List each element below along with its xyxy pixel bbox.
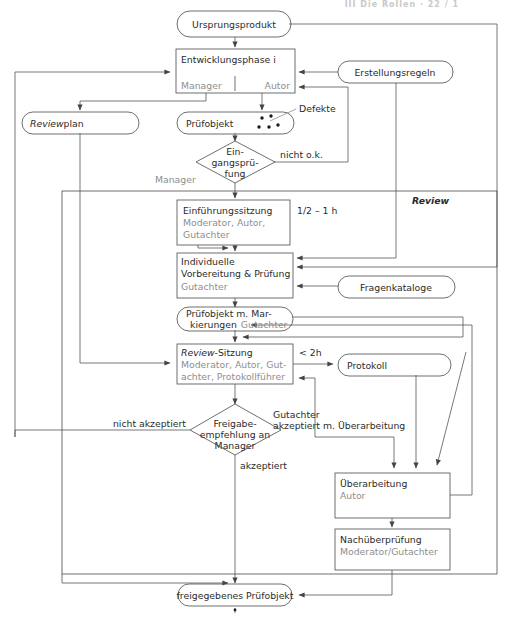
reviewplan-label-rest: plan bbox=[64, 118, 84, 129]
node-freigabeempfehlung[interactable]: Freigabe- empfehlung an Manager nicht ak… bbox=[113, 404, 405, 471]
freigabeempfehlung-line3: Manager bbox=[215, 440, 256, 451]
node-freigegebenes-pruefobjekt[interactable]: freigegebenes Prüfobjekt bbox=[177, 584, 294, 606]
flowchart-canvas: Review Ursprungsprodukt Entwicklungsphas… bbox=[0, 0, 511, 622]
review-frame-label: Review bbox=[412, 195, 450, 206]
pruefobjekt-mark-role: Gutachter bbox=[241, 319, 288, 330]
fragenkataloge-label: Fragenkataloge bbox=[360, 282, 432, 293]
eingangspruefung-line1: Ein- bbox=[226, 146, 244, 157]
ueberarbeitung-label: Überarbeitung bbox=[340, 478, 407, 489]
node-individuelle-vorbereitung[interactable]: Individuelle Vorbereitung & Prüfung Guta… bbox=[177, 253, 293, 298]
review-sitzung-role1: Moderator, Autor, Gut- bbox=[181, 359, 286, 370]
review-sitzung-role2: achter, Protokollführer bbox=[181, 371, 285, 382]
individuelle-label2: Vorbereitung & Prüfung bbox=[181, 268, 290, 279]
einfuehrungssitzung-label: Einführungssitzung bbox=[183, 205, 272, 216]
defekte-annotation: Defekte bbox=[299, 103, 336, 114]
ursprungsprodukt-label: Ursprungsprodukt bbox=[192, 19, 276, 30]
nachueberpruefung-label: Nachüberprüfung bbox=[340, 534, 422, 545]
defekte-dots bbox=[257, 114, 279, 128]
edge-label-akzeptiert-ueberarbeitung: akzeptiert m. Überarbeitung bbox=[273, 420, 405, 431]
erstellungsregeln-label: Erstellungsregeln bbox=[354, 67, 435, 78]
node-fragenkataloge[interactable]: Fragenkataloge bbox=[338, 276, 455, 298]
reviewplan-label-italic: Review bbox=[30, 118, 64, 129]
ueberarbeitung-role: Autor bbox=[340, 490, 366, 501]
freigabeempfehlung-line1: Freigabe- bbox=[213, 418, 256, 429]
edge-label-akzeptiert: akzeptiert bbox=[240, 460, 287, 471]
node-nachueberpruefung[interactable]: Nachüberprüfung Moderator/Gutachter bbox=[335, 529, 450, 570]
einfuehrungssitzung-role1: Moderator, Autor, bbox=[183, 217, 265, 228]
protokoll-label: Protokoll bbox=[347, 360, 387, 371]
entwicklungsphase-role-manager: Manager bbox=[181, 80, 222, 91]
pruefobjekt-mark-line2: kierungenGutachter bbox=[190, 319, 288, 330]
entwicklungsphase-role-autor: Autor bbox=[265, 80, 291, 91]
node-entwicklungsphase[interactable]: Entwicklungsphase i Manager Autor bbox=[176, 49, 295, 93]
review-sitzung-label-rest: -Sitzung bbox=[215, 347, 253, 358]
eingangspruefung-line2: gangsprü- bbox=[211, 157, 258, 168]
review-sitzung-duration: < 2h bbox=[299, 347, 322, 358]
node-ursprungsprodukt[interactable]: Ursprungsprodukt bbox=[177, 11, 291, 37]
pruefobjekt-mark-label2: kierungen bbox=[190, 319, 237, 330]
node-eingangspruefung[interactable]: Ein- gangsprü- fung Manager nicht o.k. bbox=[155, 141, 323, 185]
node-protokoll[interactable]: Protokoll bbox=[338, 354, 451, 376]
node-erstellungsregeln[interactable]: Erstellungsregeln bbox=[338, 61, 453, 83]
edge-label-nicht-ok: nicht o.k. bbox=[280, 149, 323, 160]
pruefobjekt-label: Prüfobjekt bbox=[186, 118, 234, 129]
pruefobjekt-mark-label1: Prüfobjekt m. Mar- bbox=[186, 308, 272, 319]
node-pruefobjekt[interactable]: Prüfobjekt Defekte bbox=[177, 103, 336, 134]
edge-label-gutachter: Gutachter bbox=[273, 409, 320, 420]
eingangspruefung-role: Manager bbox=[155, 174, 196, 185]
node-einfuehrungssitzung[interactable]: Einführungssitzung Moderator, Autor, Gut… bbox=[177, 200, 337, 245]
individuelle-label1: Individuelle bbox=[181, 256, 235, 267]
freigegebenes-pruefobjekt-label: freigegebenes Prüfobjekt bbox=[177, 590, 294, 601]
node-reviewplan[interactable]: Reviewplan bbox=[22, 112, 139, 134]
edge-label-nicht-akzeptiert: nicht akzeptiert bbox=[113, 418, 186, 429]
einfuehrungssitzung-duration: 1/2 – 1 h bbox=[297, 205, 337, 216]
node-ueberarbeitung[interactable]: Überarbeitung Autor bbox=[335, 473, 450, 518]
individuelle-role: Gutachter bbox=[181, 281, 228, 292]
freigabeempfehlung-line2: empfehlung an bbox=[200, 429, 270, 440]
eingangspruefung-line3: fung bbox=[225, 168, 246, 179]
reviewplan-label: Reviewplan bbox=[30, 118, 84, 129]
flowchart-page: III Die Rollen · 22 / 1 bbox=[0, 0, 511, 622]
node-pruefobjekt-markierungen[interactable]: Prüfobjekt m. Mar- kierungenGutachter bbox=[177, 307, 293, 331]
nachueberpruefung-role: Moderator/Gutachter bbox=[340, 546, 438, 557]
entwicklungsphase-label: Entwicklungsphase i bbox=[181, 54, 276, 65]
einfuehrungssitzung-role2: Gutachter bbox=[183, 229, 230, 240]
review-frame bbox=[62, 191, 497, 574]
review-sitzung-label: Review-Sitzung bbox=[181, 347, 253, 358]
review-sitzung-label-italic: Review bbox=[181, 347, 215, 358]
